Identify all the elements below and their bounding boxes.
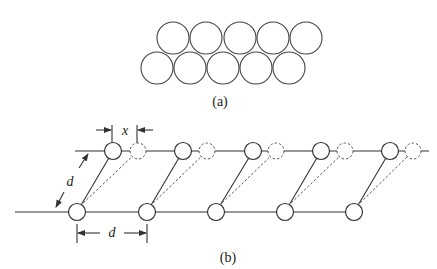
diagonal-label: d [67, 174, 75, 189]
displacement-label: x [121, 123, 129, 138]
solid-bonds [77, 151, 390, 212]
panel-b-label: (b) [220, 250, 237, 266]
panel-a-circles [141, 22, 322, 84]
panel-a-label: (a) [212, 94, 228, 110]
diagram-canvas: (a) [0, 0, 437, 269]
dashed-bonds [80, 151, 413, 206]
spacing-label: d [109, 225, 117, 240]
